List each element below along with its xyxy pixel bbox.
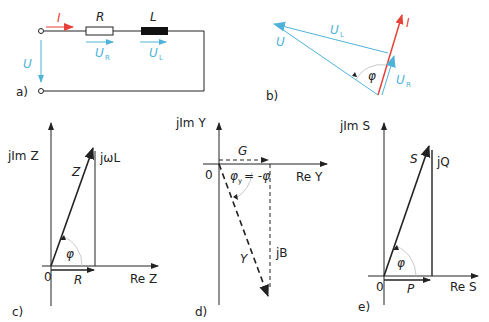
caption-b: b) (266, 89, 278, 103)
label-resistor: R (96, 10, 104, 24)
c-label-y-axis: jIm Z (7, 149, 39, 163)
inductor (141, 27, 168, 35)
label-ur-sub: R (406, 81, 411, 89)
e-label-real: P (407, 282, 415, 296)
d-label-real: G (238, 144, 247, 158)
label-voltage-ur: U (95, 46, 104, 60)
label-inductor: L (150, 10, 157, 24)
c-label-angle: φ (66, 247, 74, 261)
d-label-angle: φ (230, 169, 238, 183)
e-label-vector: S (410, 152, 418, 166)
label-current: I (57, 11, 61, 25)
d-label-angle-sub: y (238, 177, 242, 185)
phasor-diagram-figure: I R L U U R U L a) U L U I φ U R b) jIm … (0, 0, 489, 322)
panel-a-circuit: I R L U U R U L a) (16, 10, 204, 99)
e-vector-s (384, 146, 429, 276)
terminal-bottom (39, 89, 44, 94)
label-voltage-ul-sub: L (159, 54, 163, 62)
d-label-angle-eq: = -φ (244, 169, 270, 183)
label-ul: U (330, 23, 339, 37)
e-label-y-axis: jIm S (339, 119, 370, 133)
label-voltage-ul: U (149, 46, 158, 60)
label-u: U (276, 35, 285, 49)
panel-c-impedance: jIm Z Re Z 0 Z jωL R φ c) (7, 123, 158, 319)
d-label-origin: 0 (205, 168, 213, 182)
c-label-real: R (74, 273, 82, 287)
panel-d-admittance: jIm Y Re Y 0 G φ y = -φ Y jB d) (175, 116, 327, 319)
panel-b-phasor: U L U I φ U R b) (266, 15, 411, 103)
e-label-imag: jQ (436, 155, 450, 169)
e-label-x-axis: Re S (450, 280, 477, 294)
d-vector-y (219, 164, 268, 296)
panel-e-power: jIm S Re S 0 S jQ P φ e) (339, 119, 478, 314)
caption-e: e) (358, 300, 370, 314)
c-label-imag: jωL (99, 151, 120, 165)
label-angle: φ (368, 69, 376, 83)
caption-c: c) (12, 305, 23, 319)
d-label-y-axis: jIm Y (175, 116, 206, 130)
u-phasor (276, 25, 378, 95)
label-voltage-ur-sub: R (105, 54, 110, 62)
d-label-x-axis: Re Y (296, 170, 323, 184)
label-ur: U (396, 73, 405, 87)
label-current: I (406, 16, 410, 30)
terminal-top (39, 29, 44, 34)
c-label-vector: Z (71, 165, 81, 179)
e-label-angle: φ (397, 256, 405, 270)
caption-a: a) (16, 85, 28, 99)
c-label-x-axis: Re Z (130, 272, 157, 286)
c-label-origin: 0 (44, 270, 52, 284)
d-label-imag: jB (275, 246, 288, 260)
d-label-vector: Y (240, 252, 249, 266)
resistor (86, 27, 113, 35)
caption-d: d) (195, 305, 207, 319)
e-label-origin: 0 (376, 280, 384, 294)
label-voltage-u: U (23, 57, 32, 71)
label-ul-sub: L (340, 31, 344, 39)
